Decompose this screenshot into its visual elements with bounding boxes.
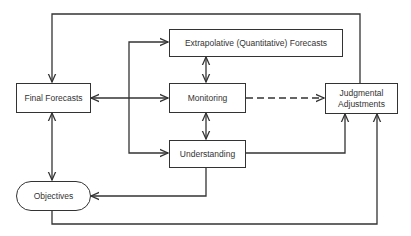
extrapolative-forecasts-label: Extrapolative (Quantitative) Forecasts [185,38,327,49]
understanding-label: Understanding [180,149,235,160]
objectives-node: Objectives [16,181,91,211]
edge-understanding-judgmental [246,114,345,153]
objectives-label: Objectives [34,191,74,202]
extrapolative-forecasts-node: Extrapolative (Quantitative) Forecasts [169,29,343,57]
monitoring-label: Monitoring [188,93,228,104]
edge-objectives-judgmental [52,114,377,224]
judgmental-adjustments-node: Judgmental Adjustments [325,83,398,114]
edge-understanding-objectives [91,168,206,196]
edge-to-understanding [129,98,168,153]
understanding-node: Understanding [169,140,246,168]
final-forecasts-node: Final Forecasts [16,83,91,113]
final-forecasts-label: Final Forecasts [24,93,82,104]
judgmental-adjustments-label: Judgmental Adjustments [334,88,389,110]
monitoring-node: Monitoring [169,83,246,113]
edge-to-extrapolative [129,42,168,98]
